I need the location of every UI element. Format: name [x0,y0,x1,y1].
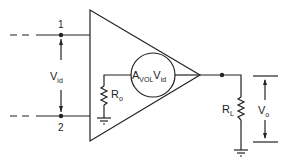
vid-arrowhead-down [59,106,63,112]
op-amp-circuit-diagram: 1 2 Vid AVOLVid Ro RL Vo [0,0,291,166]
vo-label: Vo [258,104,269,118]
output-node-dot [220,73,224,77]
vid-arrowhead-up [59,39,63,45]
dependent-source-label: AVOLVid [132,69,166,83]
ground-icon [234,150,248,156]
ro-label: Ro [111,88,123,102]
ro-resistor [101,86,107,105]
rl-label: RL [222,103,234,117]
input2-node-dot [59,114,63,118]
vid-label: Vid [50,70,63,84]
rl-resistor [238,97,244,120]
vo-arrowhead-down [263,133,267,139]
node1-label: 1 [58,19,64,30]
vo-arrowhead-up [263,79,267,85]
ro-wire [104,75,131,86]
node2-label: 2 [58,122,64,133]
ground-icon [97,118,111,124]
output-wire [200,75,241,97]
input1-node-dot [59,33,63,37]
